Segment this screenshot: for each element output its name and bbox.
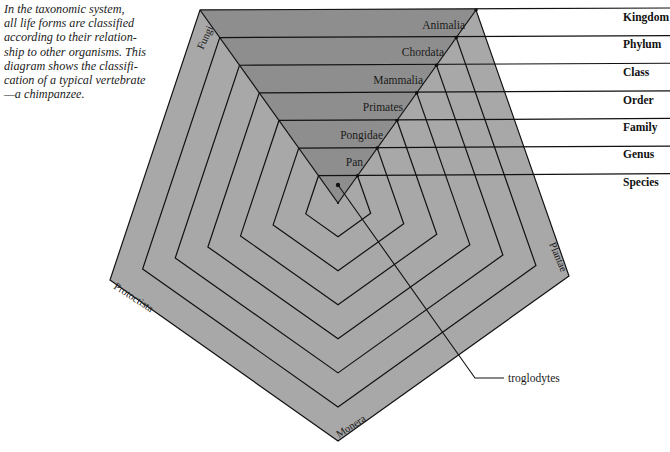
taxon-label-order: Primates [363, 101, 404, 113]
taxonomy-pentagon-diagram: Animalia Chordata Mammalia Primates Pong… [0, 0, 670, 452]
species-dot [336, 183, 340, 187]
taxon-label-genus: Pan [346, 156, 364, 168]
rank-dot [454, 36, 458, 40]
rank-dot [415, 91, 419, 95]
rank-label-genus: Genus [623, 148, 655, 160]
rank-label-family: Family [623, 121, 658, 134]
rank-label-phylum: Phylum [623, 38, 662, 51]
rank-dot [395, 119, 399, 123]
rank-label-class: Class [623, 66, 650, 78]
taxon-label-class: Mammalia [373, 74, 423, 86]
rank-label-species: Species [623, 176, 659, 189]
rank-dot [474, 8, 478, 12]
rank-label-kingdom: Kingdom [623, 11, 669, 24]
rank-dot [435, 63, 439, 67]
taxon-label-phylum: Chordata [402, 46, 444, 58]
rank-dot [375, 146, 379, 150]
taxon-label-family: Pongidae [340, 129, 383, 142]
rank-dot [356, 174, 360, 178]
rank-label-order: Order [623, 94, 654, 106]
species-label-troglodytes: troglodytes [508, 372, 560, 385]
taxon-label-kingdom: Animalia [422, 19, 465, 31]
